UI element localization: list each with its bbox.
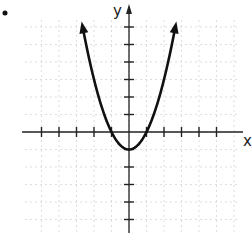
right-arrow-icon bbox=[170, 21, 179, 34]
bullet-dot bbox=[3, 11, 8, 16]
x-axis-label: x bbox=[243, 132, 252, 150]
parabola-graph: y x bbox=[0, 0, 252, 237]
y-axis-label: y bbox=[113, 2, 122, 20]
left-arrow-icon bbox=[79, 21, 88, 34]
grid-lines bbox=[25, 20, 240, 233]
y-axis-arrow-icon bbox=[126, 4, 132, 14]
